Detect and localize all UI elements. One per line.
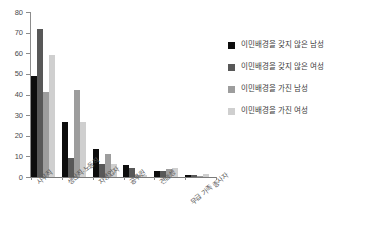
legend-swatch-icon bbox=[228, 108, 235, 115]
y-axis-tick: 70 bbox=[26, 33, 30, 34]
bar-group bbox=[31, 12, 62, 177]
y-axis-tick: 10 bbox=[26, 156, 30, 157]
legend-swatch-icon bbox=[228, 42, 235, 49]
bar-group bbox=[123, 12, 154, 177]
legend-item[interactable]: 이민배경을 가진 여성 bbox=[228, 100, 388, 122]
y-axis-tick: 30 bbox=[26, 115, 30, 116]
legend-item[interactable]: 이민배경을 갖지 않은 여성 bbox=[228, 56, 388, 78]
legend-item[interactable]: 이민배경을 갖지 않은 남성 bbox=[228, 34, 388, 56]
y-axis-tick: 80 bbox=[26, 12, 30, 13]
bar bbox=[49, 55, 55, 177]
y-axis-tick-label: 20 bbox=[15, 133, 23, 141]
y-axis-tick: 60 bbox=[26, 53, 30, 54]
legend-label: 이민배경을 가진 여성 bbox=[241, 107, 308, 115]
legend-item[interactable]: 이민배경을 가진 남성 bbox=[228, 78, 388, 100]
plot-area: 01020304050607080 bbox=[30, 12, 216, 177]
bar-groups bbox=[31, 12, 216, 177]
bar-group bbox=[154, 12, 185, 177]
y-axis-tick: 50 bbox=[26, 74, 30, 75]
bar-group bbox=[62, 12, 93, 177]
y-axis-tick-label: 40 bbox=[15, 91, 23, 99]
legend-swatch-icon bbox=[228, 64, 235, 71]
legend-label: 이민배경을 갖지 않은 여성 bbox=[241, 63, 324, 71]
y-axis-tick-label: 30 bbox=[15, 112, 23, 120]
legend-label: 이민배경을 갖지 않은 남성 bbox=[241, 41, 324, 49]
y-axis-tick: 40 bbox=[26, 95, 30, 96]
legend-swatch-icon bbox=[228, 86, 235, 93]
y-axis-tick-label: 80 bbox=[15, 9, 23, 17]
bar-chart: 01020304050607080 사무직생산직·노동직자영업자공무원견습생무급… bbox=[0, 0, 390, 239]
chart-legend: 이민배경을 갖지 않은 남성이민배경을 갖지 않은 여성이민배경을 가진 남성이… bbox=[228, 34, 388, 122]
y-axis-tick-label: 50 bbox=[15, 71, 23, 79]
y-axis-tick-label: 60 bbox=[15, 50, 23, 58]
bar-group bbox=[185, 12, 216, 177]
category-axis-labels: 사무직생산직·노동직자영업자공무원견습생무급 가족 종사자 bbox=[0, 178, 280, 236]
y-axis-tick-label: 10 bbox=[15, 153, 23, 161]
legend-label: 이민배경을 가진 남성 bbox=[241, 85, 308, 93]
bar-group bbox=[93, 12, 124, 177]
y-axis-tick-label: 70 bbox=[15, 29, 23, 37]
y-axis-tick: 20 bbox=[26, 136, 30, 137]
